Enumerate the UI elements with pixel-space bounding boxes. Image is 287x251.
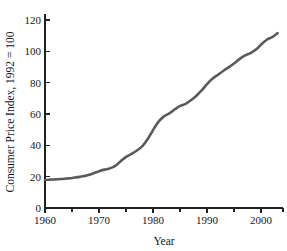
- cpi-series-line: [45, 33, 278, 180]
- y-axis-group: 120 100 80 60 40 20 0: [25, 14, 51, 214]
- x-tick-label-1990: 1990: [196, 214, 219, 226]
- y-tick-label-80: 80: [30, 77, 42, 89]
- y-tick-label-40: 40: [30, 139, 42, 151]
- x-tick-label-1980: 1980: [142, 214, 165, 226]
- x-axis-title: Year: [153, 235, 174, 247]
- x-tick-label-1960: 1960: [34, 214, 57, 226]
- x-tick-label-2000: 2000: [250, 214, 273, 226]
- y-tick-label-0: 0: [36, 202, 42, 214]
- y-tick-label-100: 100: [25, 45, 42, 57]
- y-tick-label-20: 20: [30, 171, 42, 183]
- x-axis-group: 1960 1970 1980 1990 2000: [34, 208, 283, 226]
- y-tick-label-60: 60: [30, 108, 42, 120]
- x-tick-label-1970: 1970: [88, 214, 111, 226]
- chart-canvas: 120 100 80 60 40 20 0 1960 1970 1980 199…: [0, 0, 287, 251]
- cpi-line-chart-figure: 120 100 80 60 40 20 0 1960 1970 1980 199…: [0, 0, 287, 251]
- y-axis-title: Consumer Price Index, 1992 = 100: [4, 31, 17, 192]
- y-tick-label-120: 120: [25, 14, 42, 26]
